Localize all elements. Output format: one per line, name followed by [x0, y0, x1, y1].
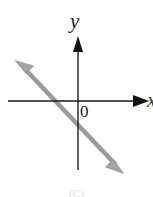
y-axis-label: y	[70, 11, 79, 32]
origin-label: 0	[80, 103, 89, 120]
x-axis-label: x	[147, 90, 153, 111]
arrowhead-upper-left-icon	[16, 61, 33, 73]
y-axis-arrowhead-icon	[73, 36, 83, 52]
arrowhead-lower-right-icon	[106, 160, 123, 173]
figure-caption: (C)	[0, 187, 153, 197]
gray-line-graph	[16, 61, 123, 173]
line-segment	[24, 68, 116, 165]
coordinate-graph-figure: y x 0 (C)	[0, 0, 153, 197]
